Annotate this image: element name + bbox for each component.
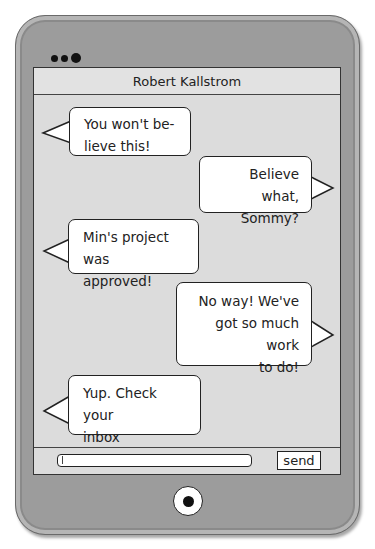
message-text-line: approved! bbox=[83, 270, 188, 292]
camera-icon bbox=[71, 53, 81, 63]
chat-header: Robert Kallstrom bbox=[34, 68, 340, 95]
message-text-line: lieve this! bbox=[84, 135, 180, 157]
message-text-line: got so much work bbox=[187, 312, 299, 356]
dot-icon bbox=[61, 55, 68, 62]
message-text-line: to do! bbox=[187, 356, 299, 378]
bubble-tail-right bbox=[309, 317, 335, 351]
message-text-line: Sommy? bbox=[210, 207, 299, 229]
message-text-line: Min's project was bbox=[83, 226, 188, 270]
home-button[interactable] bbox=[173, 486, 203, 516]
bubble-tail-right bbox=[309, 173, 335, 203]
message-bubble: No way! We've got so much work to do! bbox=[176, 282, 312, 366]
message-bubble: Believe what, Sommy? bbox=[199, 156, 312, 213]
message-text-line: You won't be- bbox=[84, 113, 180, 135]
message-composer: send bbox=[34, 447, 340, 474]
message-bubble: You won't be- lieve this! bbox=[69, 107, 191, 156]
message-input[interactable] bbox=[57, 454, 252, 467]
message-text-line: Believe what, bbox=[210, 163, 299, 207]
send-button[interactable]: send bbox=[277, 451, 321, 470]
message-bubble: Min's project was approved! bbox=[68, 219, 199, 274]
message-text-line: Yup. Check your bbox=[83, 382, 190, 426]
chat-screen: Robert Kallstrom You won't be- lieve thi… bbox=[33, 67, 341, 475]
message-text-line: inbox bbox=[83, 426, 190, 448]
message-text-line: No way! We've bbox=[187, 290, 299, 312]
message-bubble: Yup. Check your inbox bbox=[68, 375, 201, 435]
home-button-dot-icon bbox=[183, 496, 194, 507]
dot-icon bbox=[51, 55, 58, 62]
contact-name: Robert Kallstrom bbox=[133, 74, 241, 89]
text-caret bbox=[62, 456, 63, 464]
message-list[interactable]: You won't be- lieve this! Believe what, … bbox=[34, 95, 340, 450]
